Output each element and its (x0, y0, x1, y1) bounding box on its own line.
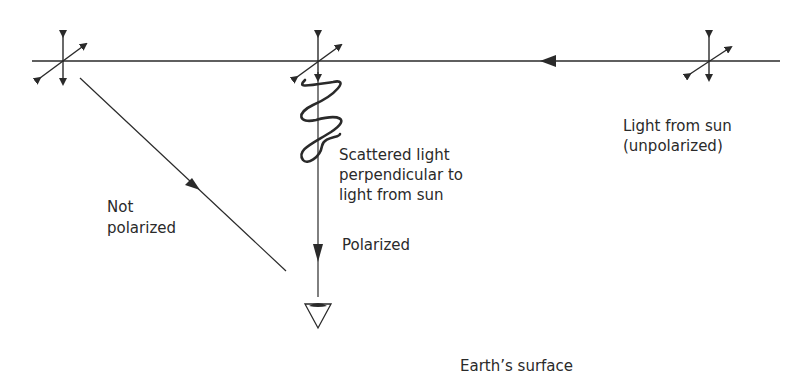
unpolarized-marker-sun-icon (690, 36, 731, 80)
polarized-label: Polarized (342, 236, 410, 254)
scattered-wave (301, 80, 341, 162)
earth-surface-label: Earth’s surface (460, 357, 573, 375)
arrow-diagonal-icon (185, 178, 200, 190)
scattered-label-line1: Scattered light (339, 146, 450, 164)
scattered-label-line3: light from sun (339, 186, 444, 204)
unpolarized-marker-scatter-icon (297, 36, 341, 80)
sunlight-ray (32, 55, 780, 67)
arrow-down-icon (313, 244, 323, 262)
sun-label-line1: Light from sun (623, 117, 732, 135)
non-polarized-ray (80, 78, 286, 271)
not-polarized-label-line2: polarized (107, 219, 176, 237)
eye-icon (305, 303, 331, 328)
unpolarized-marker-left-icon (40, 36, 86, 84)
sun-label-line2: (unpolarized) (623, 137, 723, 155)
scattered-label-line2: perpendicular to (339, 166, 463, 184)
not-polarized-label-line1: Not (107, 198, 133, 216)
arrow-left-icon (540, 55, 556, 67)
